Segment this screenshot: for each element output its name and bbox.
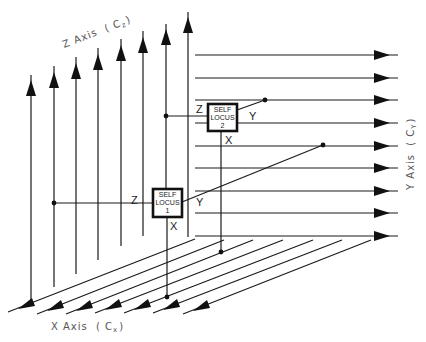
z-label: Z: [131, 194, 138, 206]
arrow-right-icon: [374, 95, 390, 105]
arrow-right-icon: [374, 186, 390, 196]
x-label: X: [170, 220, 178, 232]
arrow-right-icon: [374, 163, 390, 173]
arrow-down-left-icon: [193, 300, 210, 311]
locus-line2: LOCUS: [210, 114, 234, 121]
arrow-right-icon: [374, 231, 390, 241]
y-label: Y: [196, 196, 204, 208]
z-projection-dot: [52, 201, 57, 206]
arrow-down-left-icon: [76, 300, 93, 311]
arrow-up-icon: [116, 45, 126, 61]
x-label: X: [225, 134, 233, 146]
x-projection-dot: [165, 295, 170, 300]
x-axis-lines: [8, 239, 371, 314]
arrow-right-icon: [374, 50, 390, 60]
arrow-down-left-icon: [47, 300, 64, 311]
arrow-up-icon: [161, 29, 171, 45]
arrow-up-icon: [183, 17, 193, 33]
locus-number: 2: [221, 122, 225, 129]
arrow-up-icon: [71, 63, 81, 79]
y-projection-dot: [321, 143, 326, 148]
x-axis-label: X Axis ( Cx): [51, 321, 124, 334]
arrow-right-icon: [374, 118, 390, 128]
arrow-right-icon: [374, 208, 390, 218]
arrow-up-icon: [93, 54, 103, 70]
self-locus-3d-axes-diagram: SELF LOCUS 2 Z Y X SELF LOCUS 1 Z Y X Z …: [0, 0, 426, 342]
svg-text:Z Axis ( Cz): Z Axis ( Cz): [61, 14, 133, 52]
locus-line2: LOCUS: [155, 199, 179, 206]
self-locus-2: SELF LOCUS 2 Z Y X: [196, 103, 257, 146]
y-axis-label: Y Axis ( CY): [405, 118, 418, 191]
y-label: Y: [249, 110, 257, 122]
locus-line1: SELF: [214, 106, 232, 113]
arrow-up-icon: [26, 80, 36, 96]
arrow-down-left-icon: [134, 299, 151, 310]
arrow-up-icon: [138, 37, 148, 53]
svg-text:Y Axis ( CY): Y Axis ( CY): [405, 118, 418, 191]
arrow-right-icon: [374, 141, 390, 151]
svg-text:X Axis ( Cx): X Axis ( Cx): [51, 321, 124, 334]
z-projection-dot: [164, 114, 169, 119]
z-label: Z: [196, 103, 203, 115]
locus-line1: SELF: [159, 191, 177, 198]
arrow-up-icon: [49, 72, 59, 88]
locus-number: 1: [166, 207, 170, 214]
arrow-down-left-icon: [163, 299, 180, 310]
arrow-right-icon: [374, 73, 390, 83]
x-projection-dot: [219, 250, 224, 255]
arrow-down-left-icon: [105, 299, 122, 310]
z-axis-label: Z Axis ( Cz): [61, 14, 133, 52]
y-projection-dot: [263, 98, 268, 103]
z-axis-lines: [26, 12, 193, 302]
arrow-down-left-icon: [18, 298, 35, 309]
